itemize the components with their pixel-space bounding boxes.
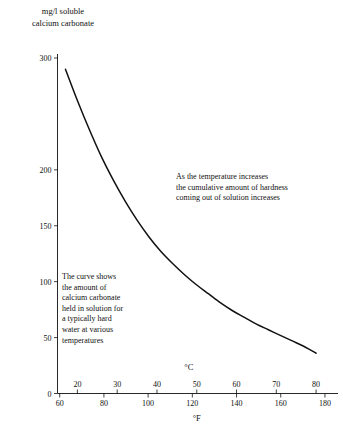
svg-text:70: 70 [272,380,280,389]
annotation-curve-description: The curve shows the amount of calcium ca… [62,272,170,346]
y-tick-marks [54,58,58,394]
svg-text:180: 180 [319,399,331,408]
svg-text:80: 80 [100,399,108,408]
svg-text:50: 50 [44,334,52,343]
svg-text:140: 140 [231,399,243,408]
svg-text:0: 0 [48,390,52,399]
svg-text:30: 30 [113,380,121,389]
svg-text:160: 160 [275,399,287,408]
svg-text:50: 50 [193,380,201,389]
svg-text:60: 60 [233,380,241,389]
svg-text:°F: °F [193,413,201,423]
celsius-tick-labels: 20304050607080 [73,380,320,389]
annotation-temperature-trend: As the temperature increases the cumulat… [176,172,342,204]
svg-text:20: 20 [73,380,81,389]
svg-text:40: 40 [153,380,161,389]
svg-text:120: 120 [186,399,198,408]
svg-text:°C: °C [184,362,193,372]
svg-text:300: 300 [40,54,52,63]
svg-text:100: 100 [142,399,154,408]
svg-text:150: 150 [40,222,52,231]
y-tick-labels: 050100150200300 [40,54,52,399]
chart-canvas: mg/l soluble calcium carbonate 050100150… [0,0,343,432]
fahrenheit-tick-marks [60,394,325,398]
svg-text:80: 80 [312,380,320,389]
svg-text:60: 60 [56,399,64,408]
fahrenheit-tick-labels: 6080100120140160180 [56,399,331,408]
celsius-tick-marks [77,390,316,394]
axis-unit-labels: °C°F [184,362,201,423]
svg-text:200: 200 [40,166,52,175]
svg-text:100: 100 [40,278,52,287]
chart-plot-area: 050100150200300 20304050607080 608010012… [0,0,343,432]
